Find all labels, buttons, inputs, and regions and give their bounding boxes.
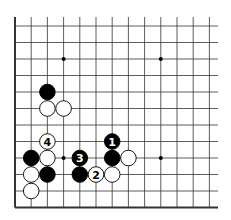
white-stone-disc	[23, 183, 39, 199]
black-stone	[40, 84, 56, 100]
black-stone-disc	[23, 150, 39, 166]
white-stone-disc	[104, 167, 120, 183]
black-stone-disc	[40, 84, 56, 100]
star-point	[62, 156, 66, 160]
white-stone	[104, 167, 120, 183]
white-stone	[56, 101, 72, 117]
white-stone-disc	[121, 150, 137, 166]
black-stone-disc	[72, 167, 88, 183]
black-stone	[40, 167, 56, 183]
black-stone-move-1: 1	[104, 134, 120, 150]
white-stone-move-4: 4	[40, 134, 56, 150]
black-stone	[23, 150, 39, 166]
black-stone	[104, 150, 120, 166]
black-stone	[72, 167, 88, 183]
black-stone-disc	[104, 150, 120, 166]
star-point	[159, 156, 163, 160]
white-stone-disc	[23, 167, 39, 183]
move-number: 1	[108, 136, 116, 149]
white-stone-disc	[56, 101, 72, 117]
go-board: 4312	[0, 0, 231, 220]
white-stone	[23, 183, 39, 199]
move-number: 4	[44, 136, 52, 149]
white-stone-disc	[40, 101, 56, 117]
move-number: 2	[92, 169, 100, 182]
white-stone	[40, 101, 56, 117]
white-stone-disc	[40, 150, 56, 166]
white-stone-move-2: 2	[88, 167, 104, 183]
white-stone	[23, 167, 39, 183]
white-stone	[40, 150, 56, 166]
white-stone	[121, 150, 137, 166]
move-number: 3	[76, 152, 84, 165]
star-point	[159, 57, 163, 61]
star-point	[62, 57, 66, 61]
black-stone-move-3: 3	[72, 150, 88, 166]
black-stone-disc	[40, 167, 56, 183]
